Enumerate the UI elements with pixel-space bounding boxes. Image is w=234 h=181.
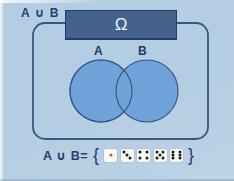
die-pip — [139, 150, 142, 153]
die-pip — [145, 150, 148, 153]
die-pip — [122, 150, 125, 153]
union-title-label: A ∪ B — [21, 6, 59, 20]
die-pip — [129, 157, 132, 160]
die-pip — [172, 157, 175, 160]
close-brace: } — [188, 146, 194, 165]
scan-edge-top — [0, 0, 105, 3]
open-brace: { — [93, 146, 99, 165]
die-pip — [109, 154, 112, 157]
die-pip — [126, 154, 129, 157]
dice-list — [104, 149, 183, 162]
die-pip — [139, 157, 142, 160]
union-equation: A ∪ B= { } — [43, 144, 194, 166]
die-pip — [145, 157, 148, 160]
die-pip — [155, 150, 158, 153]
omega-label: Ω — [115, 16, 128, 33]
die-face-5 — [154, 149, 167, 162]
die-pip — [178, 157, 181, 160]
die-pip — [155, 157, 158, 160]
scan-edge-bottom — [0, 179, 234, 181]
die-pip — [162, 157, 165, 160]
die-face-6 — [170, 149, 183, 162]
equation-lhs: A ∪ B= — [43, 148, 88, 163]
set-b-label: B — [138, 45, 147, 57]
die-face-3 — [121, 149, 134, 162]
die-pip — [162, 150, 165, 153]
universe-set-box: Ω — [65, 10, 177, 40]
die-face-4 — [137, 149, 150, 162]
set-a-label: A — [94, 45, 103, 57]
die-pip — [159, 154, 162, 157]
scan-edge-left — [0, 0, 4, 181]
set-b-circle — [116, 60, 178, 122]
venn-diagram-scene: A ∪ B Ω A B A ∪ B= { } — [0, 0, 234, 181]
die-face-1 — [104, 149, 117, 162]
